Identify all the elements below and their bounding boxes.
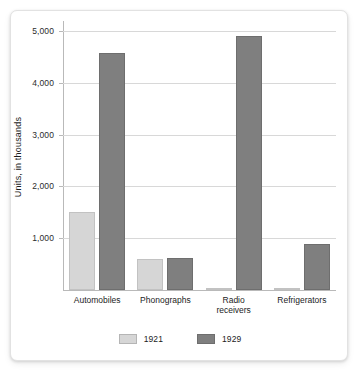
legend-swatch-1929 [197,334,215,344]
bar [99,53,125,290]
bar-group [268,21,336,290]
x-tick-label-line: Refrigerators [265,295,339,305]
bar [137,259,163,290]
y-tick-label-5000: 5,000 [32,26,54,36]
legend-item: 1921 [119,334,163,344]
x-tick-label-line: receivers [197,305,271,315]
x-tick-label-line: Automobiles [60,295,134,305]
y-tick-label-1000: 1,000 [32,233,54,243]
y-tick-label-3000: 3,000 [32,130,54,140]
bar-group [63,21,131,290]
x-axis-line [63,290,336,291]
y-tick-label-2000: 2,000 [32,181,54,191]
x-tick-label: Radioreceivers [197,295,271,315]
x-tick-label: Refrigerators [265,295,339,305]
y-tick-label-4000: 4,000 [32,78,54,88]
x-tick-label-line: Phonographs [128,295,202,305]
bar [167,258,193,290]
plot-area [63,21,336,290]
legend-label: 1921 [144,334,163,344]
chart-legend: 19211929 [0,334,360,344]
bar [206,288,232,290]
bar-group [131,21,199,290]
bar [69,212,95,290]
bar [304,244,330,290]
bar [236,36,262,290]
x-tick-label: Phonographs [128,295,202,305]
y-axis-tick-labels: 1,0002,0003,0004,0005,000 [0,0,54,373]
legend-label: 1929 [222,334,241,344]
legend-swatch-1921 [119,334,137,344]
legend-item: 1929 [197,334,241,344]
x-tick-label: Automobiles [60,295,134,305]
x-tick-label-line: Radio [197,295,271,305]
y-axis-title: Units, in thousands [13,117,23,197]
bar [274,288,300,290]
bar-group [200,21,268,290]
